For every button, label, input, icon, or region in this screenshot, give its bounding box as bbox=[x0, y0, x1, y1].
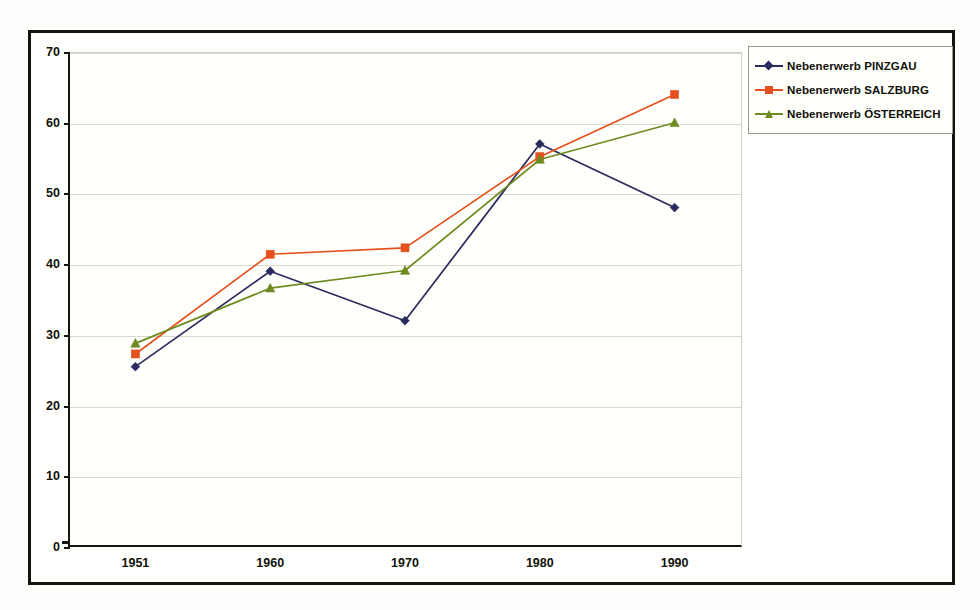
legend-item-3[interactable]: Nebenerwerb ÖSTERREICH bbox=[755, 102, 946, 126]
data-point-marker bbox=[266, 250, 274, 258]
data-point-marker bbox=[131, 350, 139, 358]
data-point-marker bbox=[401, 244, 409, 252]
y-axis-tick-label: 0 bbox=[53, 540, 60, 554]
series-3 bbox=[131, 118, 679, 347]
chart-page: 010203040506070 19511960197019801990 Neb… bbox=[0, 0, 980, 610]
x-axis-tick-label: 1990 bbox=[661, 556, 689, 570]
series-line bbox=[135, 123, 674, 344]
y-axis-tick-label: 40 bbox=[46, 257, 60, 271]
x-axis-tick-label: 1980 bbox=[526, 556, 554, 570]
y-axis-tick-label: 70 bbox=[46, 45, 60, 59]
legend-marker-square-icon bbox=[765, 86, 773, 94]
x-axis-tick-label: 1970 bbox=[391, 556, 419, 570]
x-axis-tick-label: 1960 bbox=[256, 556, 284, 570]
y-axis-tick-label: 30 bbox=[46, 328, 60, 342]
legend-item-1[interactable]: Nebenerwerb PINZGAU bbox=[755, 54, 946, 78]
data-point-marker bbox=[670, 118, 679, 127]
x-axis: 19511960197019801990 bbox=[68, 552, 742, 576]
x-axis-tick-label: 1951 bbox=[121, 556, 149, 570]
y-axis-tick-label: 20 bbox=[46, 399, 60, 413]
series-1 bbox=[131, 140, 679, 372]
data-point-marker bbox=[671, 90, 679, 98]
series-line bbox=[135, 94, 674, 354]
legend-swatch-square-icon bbox=[755, 83, 783, 97]
legend-swatch-triangle-icon bbox=[755, 107, 783, 121]
line-chart-figure: 010203040506070 19511960197019801990 Neb… bbox=[0, 0, 980, 610]
legend-label: Nebenerwerb SALZBURG bbox=[787, 84, 929, 96]
y-axis-tick bbox=[64, 547, 70, 549]
data-point-marker bbox=[670, 203, 679, 212]
legend-label: Nebenerwerb ÖSTERREICH bbox=[787, 108, 941, 120]
y-axis: 010203040506070 bbox=[0, 52, 60, 547]
legend-marker-diamond-icon bbox=[764, 61, 774, 71]
series-line bbox=[135, 144, 674, 367]
y-axis-tick-label: 50 bbox=[46, 186, 60, 200]
chart-legend: Nebenerwerb PINZGAUNebenerwerb SALZBURGN… bbox=[748, 46, 953, 134]
legend-label: Nebenerwerb PINZGAU bbox=[787, 60, 917, 72]
y-axis-tick-label: 60 bbox=[46, 116, 60, 130]
legend-item-2[interactable]: Nebenerwerb SALZBURG bbox=[755, 78, 946, 102]
y-axis-tick-label: 10 bbox=[46, 469, 60, 483]
legend-swatch-diamond-icon bbox=[755, 59, 783, 73]
legend-marker-triangle-icon bbox=[765, 110, 773, 118]
data-series-layer bbox=[68, 52, 742, 547]
